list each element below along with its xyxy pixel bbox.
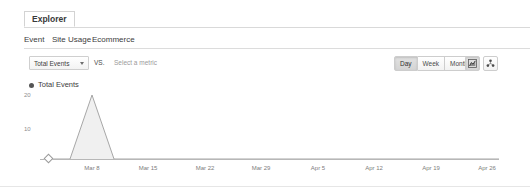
x-axis-tick-2: Mar 22	[196, 164, 215, 172]
chart-legend: Total Events	[29, 80, 79, 90]
x-axis-line	[40, 159, 499, 160]
sub-tab-bar: Event Site Usage Ecommerce	[24, 34, 530, 49]
x-axis-tick-0: Mar 8	[84, 164, 99, 172]
chart-view-icon[interactable]	[465, 56, 480, 71]
x-axis-tick-5: Apr 12	[365, 164, 383, 172]
legend-marker-icon	[29, 83, 34, 88]
tab-strip-divider	[24, 27, 530, 28]
panel-bottom-divider	[0, 186, 530, 187]
view-toggle-group	[465, 56, 498, 71]
x-axis-tick-4: Apr 5	[311, 164, 325, 172]
sub-tab-ecommerce[interactable]: Ecommerce	[92, 34, 135, 45]
sub-tab-divider	[24, 48, 530, 49]
x-axis-tick-6: Apr 19	[422, 164, 440, 172]
primary-metric-dropdown[interactable]: Total Events	[29, 56, 89, 70]
tab-strip: Explorer	[24, 11, 530, 28]
x-axis-tick-1: Mar 15	[139, 164, 158, 172]
vs-label: VS.	[94, 58, 104, 68]
explorer-panel: Explorer Event Site Usage Ecommerce Tota…	[0, 0, 530, 188]
sub-tab-event[interactable]: Event	[24, 34, 44, 45]
primary-metric-label: Total Events	[34, 58, 69, 69]
metric-controls-row: Total Events VS. Select a metric Day Wee…	[24, 56, 530, 74]
secondary-metric-dropdown[interactable]: Select a metric	[114, 58, 157, 68]
x-axis-tick-3: Mar 29	[252, 164, 271, 172]
granularity-week-button[interactable]: Week	[418, 56, 446, 71]
events-over-time-chart: 20 10 Mar 8 Mar 15 Mar 22 Mar 29 Apr 5 A…	[24, 92, 507, 188]
chart-plot-area	[40, 92, 499, 160]
scatter-view-icon[interactable]	[483, 56, 498, 71]
sub-tab-site-usage[interactable]: Site Usage	[52, 34, 91, 45]
granularity-day-button[interactable]: Day	[394, 56, 418, 71]
granularity-button-group: Day Week Month	[394, 56, 474, 71]
y-axis-tick-20: 20	[24, 92, 31, 99]
chart-series-total-events	[40, 92, 499, 160]
x-axis-labels: Mar 8 Mar 15 Mar 22 Mar 29 Apr 5 Apr 12 …	[40, 164, 499, 174]
legend-label-total-events: Total Events	[38, 80, 79, 90]
x-axis-tick-7: Apr 26	[478, 164, 496, 172]
y-axis-tick-10: 10	[24, 126, 31, 133]
chevron-down-icon	[80, 62, 84, 65]
tab-explorer[interactable]: Explorer	[24, 11, 75, 27]
